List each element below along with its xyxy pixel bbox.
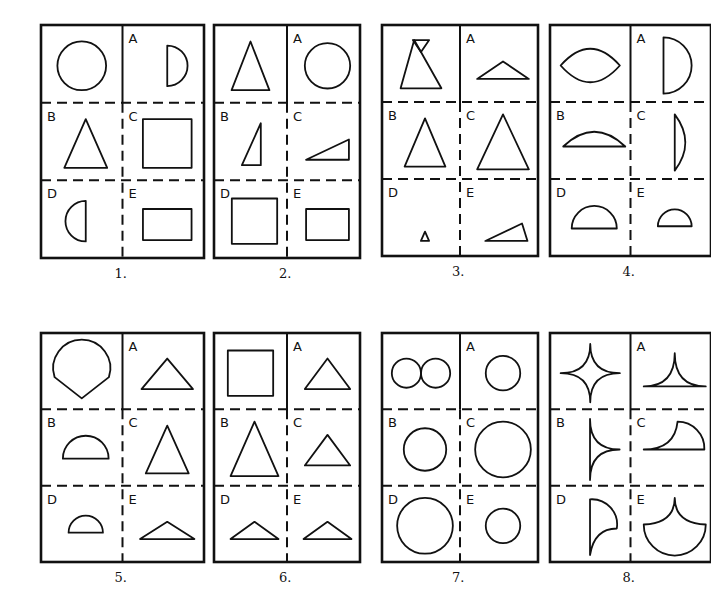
option-label: C [637, 415, 646, 430]
option-label: A [129, 31, 138, 46]
option-d-shape [421, 232, 429, 241]
puzzle-number: 5. [115, 570, 127, 585]
option-label: C [637, 108, 646, 123]
target-shape [401, 40, 442, 88]
puzzle-number: 6. [279, 570, 291, 585]
option-label: B [388, 108, 397, 123]
option-label: C [129, 415, 138, 430]
option-label: E [637, 492, 645, 507]
puzzle-2: ABCDE [214, 25, 360, 258]
option-label: E [293, 186, 301, 201]
option-d-shape [69, 516, 103, 533]
target-shape [232, 41, 270, 90]
option-e-shape [306, 209, 349, 240]
option-label: E [637, 185, 645, 200]
option-label: D [556, 185, 566, 200]
puzzle-number: 8. [623, 570, 635, 585]
option-d-shape [397, 498, 453, 554]
option-label: B [47, 415, 56, 430]
option-label: D [220, 492, 230, 507]
option-b-shape [404, 428, 446, 470]
puzzle-1: ABCDE [41, 25, 204, 258]
option-b-shape [231, 422, 279, 476]
option-c-shape [306, 139, 349, 159]
option-label: A [129, 339, 138, 354]
target-shape [57, 41, 106, 90]
option-a-shape [167, 46, 187, 87]
option-label: E [129, 186, 137, 201]
option-label: A [637, 31, 646, 46]
puzzle-8: ABCDE [550, 333, 711, 562]
option-a-shape [305, 43, 350, 88]
option-label: C [466, 108, 475, 123]
option-label: D [388, 492, 398, 507]
option-label: C [293, 415, 302, 430]
option-label: E [466, 185, 474, 200]
option-label: A [466, 339, 475, 354]
option-label: C [129, 109, 138, 124]
option-b-shape [63, 436, 109, 459]
option-b-shape [405, 118, 446, 166]
option-label: A [293, 31, 302, 46]
option-label: E [293, 492, 301, 507]
option-label: D [47, 186, 57, 201]
option-label: C [466, 415, 475, 430]
option-label: B [388, 415, 397, 430]
option-d-shape [232, 198, 277, 243]
puzzle-5: ABCDE [41, 333, 204, 562]
target-shape [561, 49, 620, 83]
option-label: C [293, 109, 302, 124]
option-label: A [637, 339, 646, 354]
option-label: A [466, 31, 475, 46]
option-label: B [556, 415, 565, 430]
option-d-shape [572, 206, 617, 229]
option-a-shape [486, 356, 520, 390]
option-b-shape [590, 419, 620, 480]
option-a-shape [644, 353, 706, 386]
option-label: B [47, 109, 56, 124]
option-c-shape [475, 422, 531, 478]
option-label: D [220, 186, 230, 201]
target-shape [53, 340, 110, 399]
puzzle-6: ABCDE [214, 333, 360, 562]
puzzle-number: 7. [452, 570, 464, 585]
target-shape [228, 350, 273, 395]
option-b-shape [64, 119, 107, 168]
target-shape [561, 344, 620, 402]
option-b-shape [242, 123, 261, 165]
option-label: A [293, 339, 302, 354]
puzzle-number: 1. [115, 266, 127, 281]
option-e-shape [143, 209, 192, 240]
option-c-shape [146, 426, 189, 474]
option-a-shape [305, 359, 350, 390]
target-shape [392, 359, 450, 388]
option-e-shape [658, 209, 692, 226]
option-e-shape [644, 498, 706, 556]
option-e-shape [304, 522, 352, 539]
option-b-shape [563, 132, 625, 147]
puzzle-number: 2. [279, 266, 291, 281]
option-label: B [220, 415, 229, 430]
puzzle-4: ABCDE [550, 25, 711, 256]
option-d-shape [231, 522, 279, 539]
option-label: B [556, 108, 565, 123]
option-label: D [556, 492, 566, 507]
puzzle-3: ABCDE [382, 25, 538, 256]
option-c-shape [675, 114, 686, 170]
option-a-shape [477, 61, 529, 78]
puzzle-7: ABCDE [382, 333, 538, 562]
option-label: B [220, 109, 229, 124]
option-c-shape [305, 435, 350, 466]
option-e-shape [485, 224, 527, 241]
option-e-shape [486, 509, 520, 543]
shape-puzzle-figure: ABCDEABCDEABCDEABCDEABCDEABCDEABCDEABCDE [0, 0, 711, 606]
option-a-shape [663, 37, 691, 93]
puzzle-number: 3. [452, 264, 464, 279]
option-d-shape [65, 201, 85, 242]
option-label: D [388, 185, 398, 200]
option-e-shape [140, 522, 194, 539]
option-label: E [466, 492, 474, 507]
option-a-shape [142, 359, 193, 390]
option-c-shape [477, 114, 529, 169]
option-d-shape [590, 499, 617, 555]
